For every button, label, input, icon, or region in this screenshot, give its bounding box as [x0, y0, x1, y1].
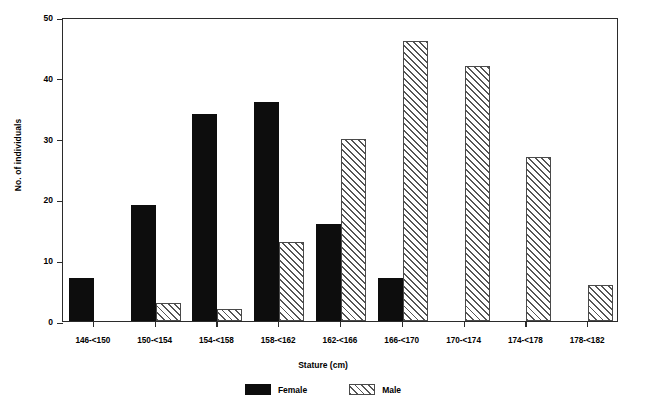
- legend-item-male[interactable]: Male: [349, 384, 401, 395]
- y-tick-label: 50: [44, 13, 53, 23]
- x-axis-title: Stature (cm): [0, 360, 646, 370]
- chart-legend: FemaleMale: [0, 384, 646, 395]
- bar-male[interactable]: [465, 66, 490, 321]
- x-tick-mark: [93, 322, 94, 327]
- bar-male[interactable]: [279, 242, 304, 321]
- x-tick-mark: [216, 322, 217, 327]
- x-tick-label: 146-<150: [75, 336, 110, 345]
- bar-group: [69, 19, 119, 321]
- bar-male[interactable]: [403, 41, 428, 321]
- legend-label: Male: [382, 385, 401, 395]
- x-tick-label: 178-<182: [570, 336, 605, 345]
- legend-swatch-male: [349, 384, 375, 395]
- legend-label: Female: [278, 385, 307, 395]
- bar-male[interactable]: [156, 303, 181, 321]
- y-tick-label: 10: [44, 256, 53, 266]
- x-tick-label: 170-<174: [446, 336, 481, 345]
- bar-group: [563, 19, 613, 321]
- bar-group: [378, 19, 428, 321]
- y-tick-label: 20: [44, 195, 53, 205]
- bar-group: [440, 19, 490, 321]
- y-axis-title: No. of individuals: [13, 85, 23, 225]
- x-tick-mark: [340, 322, 341, 327]
- bar-female[interactable]: [254, 102, 279, 321]
- x-tick-label: 150-<154: [137, 336, 172, 345]
- y-tick-label: 0: [48, 317, 53, 327]
- x-tick-mark: [402, 322, 403, 327]
- y-tick-mark: [57, 323, 63, 324]
- x-tick-mark: [464, 322, 465, 327]
- x-tick-label: 166-<170: [384, 336, 419, 345]
- x-tick-mark: [587, 322, 588, 327]
- bar-group: [131, 19, 181, 321]
- bar-female[interactable]: [316, 224, 341, 321]
- x-tick-mark: [278, 322, 279, 327]
- x-tick-mark: [155, 322, 156, 327]
- bars-layer: [63, 19, 617, 321]
- legend-swatch-female: [245, 384, 271, 395]
- x-tick-label: 162-<166: [323, 336, 358, 345]
- bar-male[interactable]: [526, 157, 551, 321]
- x-tick-label: 158-<162: [261, 336, 296, 345]
- bar-group: [192, 19, 242, 321]
- bar-male[interactable]: [217, 309, 242, 321]
- bar-male[interactable]: [588, 285, 613, 321]
- x-tick-label: 154-<158: [199, 336, 234, 345]
- bar-male[interactable]: [341, 139, 366, 321]
- bar-group: [254, 19, 304, 321]
- bar-group: [316, 19, 366, 321]
- bar-female[interactable]: [192, 114, 217, 321]
- plot-area: 01020304050: [62, 18, 618, 322]
- bar-female[interactable]: [378, 278, 403, 321]
- bar-female[interactable]: [69, 278, 94, 321]
- y-tick-label: 40: [44, 74, 53, 84]
- x-tick-mark: [525, 322, 526, 327]
- bar-female[interactable]: [131, 205, 156, 321]
- bar-chart: No. of individuals 01020304050 146-<1501…: [0, 0, 646, 409]
- legend-item-female[interactable]: Female: [245, 384, 307, 395]
- x-tick-label: 174-<178: [508, 336, 543, 345]
- bar-group: [501, 19, 551, 321]
- y-tick-label: 30: [44, 135, 53, 145]
